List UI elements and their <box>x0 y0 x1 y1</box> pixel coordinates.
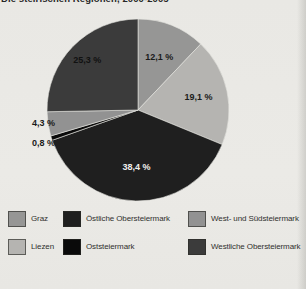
pie-label-liezen: 19,1 % <box>184 92 212 102</box>
legend-label: Liezen <box>31 242 54 251</box>
pie-label-westliche-obersteiermark: 25,3 % <box>73 55 101 65</box>
legend-label: Oststeiermark <box>86 242 135 251</box>
legend-swatch-liezen <box>8 239 26 255</box>
legend-swatch-graz <box>8 211 26 227</box>
legend-swatch-west-und-suedsteiermark <box>188 211 206 227</box>
legend-label: West- und Südsteiermark <box>211 214 299 223</box>
chart-panel: Die steirischen Regionen, 2000-2005 12,1… <box>0 0 306 289</box>
pie-slice-westliche-obersteiermark <box>47 19 138 112</box>
pie-label-west-und-suedsteiermark: 4,3 % <box>32 118 55 128</box>
legend-swatch-westliche-obersteiermark <box>188 239 206 255</box>
pie-label-oestliche-obersteiermark: 38,4 % <box>123 162 151 172</box>
legend-label: Graz <box>31 214 48 223</box>
pie-label-graz: 12,1 % <box>145 52 173 62</box>
legend-label: Östliche Obersteiermark <box>86 214 170 223</box>
legend-swatch-oestliche-obersteiermark <box>63 211 81 227</box>
pie-label-oststeiermark: 0,8 % <box>32 138 55 148</box>
legend-label: Westliche Obersteiermark <box>211 242 300 251</box>
legend-swatch-oststeiermark <box>63 239 81 255</box>
